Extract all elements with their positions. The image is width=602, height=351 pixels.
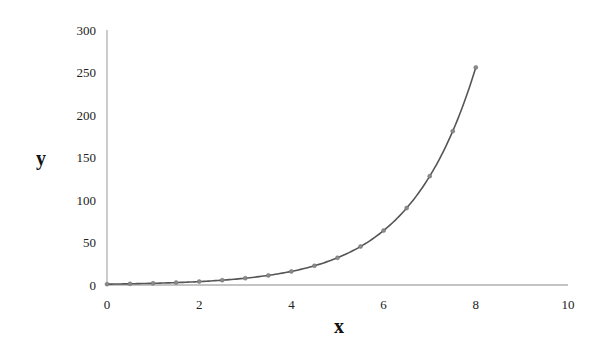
y-tick-label: 0	[90, 278, 97, 293]
data-point	[174, 281, 178, 285]
data-point	[289, 269, 293, 273]
y-tick-label: 300	[77, 23, 97, 38]
x-tick-labels: 0246810	[104, 297, 575, 312]
data-point	[243, 276, 247, 280]
data-point	[128, 282, 132, 286]
x-tick-label: 4	[288, 297, 295, 312]
series-line	[107, 67, 476, 284]
data-point	[220, 278, 224, 282]
data-point	[359, 245, 363, 249]
axes	[107, 30, 568, 285]
y-tick-label: 200	[77, 108, 97, 123]
y-tick-label: 100	[77, 193, 97, 208]
data-point	[451, 129, 455, 133]
y-tick-label: 50	[83, 235, 96, 250]
x-tick-label: 10	[562, 297, 575, 312]
data-point	[151, 281, 155, 285]
x-tick-label: 0	[104, 297, 111, 312]
chart: 050100150200250300 0246810 y x	[0, 0, 602, 351]
y-tick-label: 250	[77, 65, 97, 80]
x-tick-label: 2	[196, 297, 203, 312]
data-point	[266, 273, 270, 277]
data-point	[474, 65, 478, 69]
data-point	[312, 264, 316, 268]
data-point	[382, 229, 386, 233]
y-tick-labels: 050100150200250300	[77, 23, 97, 293]
x-axis-label: x	[334, 315, 344, 337]
y-tick-label: 150	[77, 150, 97, 165]
data-point	[197, 280, 201, 284]
data-point	[105, 282, 109, 286]
y-axis-label: y	[36, 147, 46, 170]
data-point-markers	[105, 65, 478, 286]
data-point	[405, 206, 409, 210]
data-point	[428, 174, 432, 178]
data-point	[336, 256, 340, 260]
x-tick-label: 8	[473, 297, 480, 312]
x-tick-label: 6	[380, 297, 387, 312]
